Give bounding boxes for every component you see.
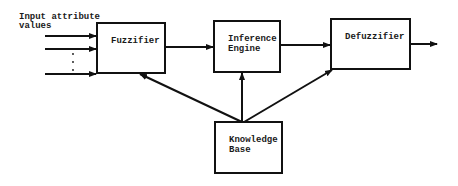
fuzzifier-label: Fuzzifier: [111, 36, 160, 46]
fuzzifier-box: Fuzzifier: [97, 23, 165, 73]
inference-engine-label-line2: Engine: [228, 44, 260, 54]
inference-engine-box: Inference Engine: [214, 21, 280, 72]
input-label-line2: values: [19, 21, 51, 31]
fuzzy-system-diagram: Input attribute values Fuzzifier Inferen…: [0, 0, 458, 186]
defuzzifier-label: Defuzzifier: [345, 32, 404, 42]
arrow-kb-to-fuzzifier: [140, 74, 242, 122]
ellipsis-dots: [72, 53, 74, 71]
defuzzifier-box: Defuzzifier: [331, 19, 410, 69]
knowledge-base-label-line2: Base: [229, 145, 251, 155]
knowledge-base-box: Knowledge Base: [215, 122, 282, 173]
arrow-kb-to-defuzzifier: [244, 70, 332, 122]
knowledge-base-label-line1: Knowledge: [229, 135, 278, 145]
inference-engine-label-line1: Inference: [228, 34, 277, 44]
